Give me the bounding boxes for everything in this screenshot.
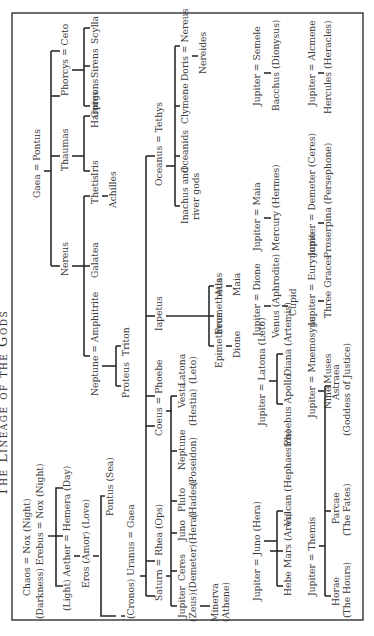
node-iris: Iris bbox=[89, 160, 100, 176]
diagram-canvas: The Lineage of the Gods Chaos = Nox (Nig… bbox=[0, 0, 374, 636]
node-vesta-alt: (Hestia) bbox=[187, 389, 198, 426]
node-coeus: Coeus = Phoebe bbox=[153, 359, 164, 436]
node-minerva-alt: (Athene) bbox=[220, 582, 231, 622]
node-hercules: Hercules (Heracles) bbox=[322, 20, 333, 114]
node-inachus-2: river gods bbox=[190, 172, 201, 220]
node-thaumas: Thaumas bbox=[59, 128, 70, 171]
node-proserpina: Proserpina (Persephone) bbox=[322, 143, 333, 258]
node-achilles: Achilles bbox=[107, 171, 118, 209]
node-sirens: Sirens bbox=[89, 48, 100, 78]
node-jupiter-alt: (Zeus) bbox=[187, 592, 198, 622]
node-jupiter-themis: Jupiter = Themis bbox=[306, 516, 317, 597]
node-nereides: Nereides bbox=[197, 31, 208, 74]
node-uranus: (Cronos) Uranus = Gaea bbox=[125, 504, 136, 619]
node-venus: Venus (Aphrodite) bbox=[270, 254, 281, 339]
node-neptune-alt: (Poseidon) bbox=[187, 437, 198, 486]
node-cupid: Cupid bbox=[287, 288, 298, 316]
node-minerva-name: Minerva bbox=[209, 583, 220, 622]
node-neptune-amph: Neptune = Amphitrite bbox=[89, 292, 100, 396]
node-nine-muses: Nine Muses bbox=[322, 353, 333, 409]
node-latona-name: Latona bbox=[176, 353, 187, 386]
node-oceanus: Oceanus = Tethys bbox=[153, 102, 164, 186]
node-juno-name: Juno bbox=[176, 519, 187, 542]
node-jupiter-demeter: Jupiter = Demeter (Ceres) bbox=[306, 133, 317, 257]
node-three-graces: Three Graces bbox=[322, 255, 333, 318]
node-gaea-pontus: Gaea = Pontus bbox=[31, 129, 42, 198]
node-phorcys: Phorcys = Ceto bbox=[59, 23, 70, 96]
node-iapetus: Iapetus bbox=[153, 296, 164, 331]
node-vesta-name: Vesta bbox=[176, 382, 187, 409]
node-jupiter-name: Jupiter bbox=[176, 585, 187, 619]
node-pluto-name: Pluto bbox=[176, 487, 187, 512]
node-phoebus: Phoebus Apollo bbox=[282, 374, 293, 446]
node-atlas: Atlas bbox=[213, 272, 224, 297]
node-galatea: Galatea bbox=[89, 242, 100, 278]
node-jupiter-maia: Jupiter = Maia bbox=[251, 182, 262, 252]
node-oceanids: Oceanids bbox=[179, 130, 190, 173]
node-hebe: Hebe bbox=[282, 571, 293, 596]
node-triton: Triton bbox=[120, 327, 131, 356]
node-latona-alt: (Leto) bbox=[187, 356, 198, 384]
node-aether: (Light) Aether = Hemera (Day) bbox=[61, 466, 72, 611]
link-eros-uranus bbox=[101, 556, 110, 616]
node-saturn: Saturn = Rhea (Ops) bbox=[153, 504, 164, 601]
node-jupiter-alcmene: Jupiter = Alcmene bbox=[306, 20, 317, 107]
node-jupiter-mnemosyne: Jupiter = Mnemosyne bbox=[306, 316, 317, 419]
lineage-diagram: The Lineage of the Gods Chaos = Nox (Nig… bbox=[0, 0, 374, 636]
node-ceres-name: Ceres bbox=[176, 554, 187, 581]
node-jupiter-dione: Jupiter = Dione bbox=[251, 263, 262, 337]
node-horae-alt: (The Hours) bbox=[341, 562, 352, 618]
node-mercury: Mercury (Hermes) bbox=[270, 164, 281, 251]
node-horae-name: Horae bbox=[330, 577, 341, 606]
node-bacchus: Bacchus (Dionysus) bbox=[270, 20, 281, 111]
diagram-title: The Lineage of the Gods bbox=[0, 310, 10, 496]
node-eros: Eros (Amor) (Love) bbox=[80, 499, 91, 588]
node-astraea-alt: (Goddess of Justice) bbox=[341, 343, 352, 436]
node-chaos: Chaos = Nox (Night) bbox=[21, 498, 32, 596]
node-parcae-name: Parcae bbox=[330, 492, 341, 524]
node-juno-alt: (Hera) bbox=[187, 514, 198, 545]
node-maia: Maia bbox=[231, 272, 242, 296]
node-nereus: Nereus bbox=[59, 242, 70, 276]
node-scylla: Scylla bbox=[89, 15, 100, 44]
node-ceres-alt: (Demeter) bbox=[187, 544, 198, 592]
node-doris: Doris = Nereus bbox=[179, 8, 190, 81]
node-clymene: Clymene bbox=[179, 83, 190, 124]
node-inachus-1: Inachus and bbox=[179, 167, 190, 224]
node-gorgons: Gorgons bbox=[89, 78, 100, 118]
node-proteus: Proteus bbox=[120, 362, 131, 398]
node-pluto-alt: (Hades) bbox=[187, 481, 198, 518]
node-neptune-name: Neptune bbox=[176, 430, 187, 470]
node-parcae-alt: (The Fates) bbox=[341, 483, 352, 536]
node-dione: Dione bbox=[231, 331, 242, 358]
node-thetis: Thetis bbox=[89, 175, 100, 204]
node-erebus: (Darkness) Erebus = Nox (Night) bbox=[34, 463, 45, 619]
node-jupiter-semele: Jupiter = Semele bbox=[251, 26, 262, 107]
node-pontus-sea: Pontus (Sea) bbox=[104, 457, 115, 516]
node-jupiter-juno: Jupiter = Juno (Hera) bbox=[251, 501, 262, 602]
